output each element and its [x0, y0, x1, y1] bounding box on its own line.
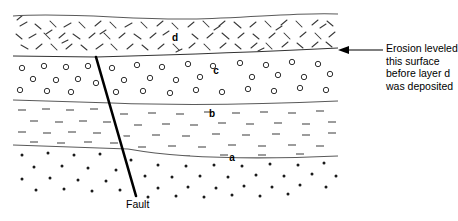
- erosion-surface-line: [13, 48, 338, 57]
- layer-label-a: a: [229, 152, 235, 163]
- erosion-annotation-line-1: Erosion leveled: [386, 42, 458, 55]
- erosion-annotation-line-3: before layer d: [386, 67, 458, 80]
- layer-a-pattern: [21, 152, 338, 199]
- erosion-annotation-line-4: was deposited: [386, 80, 458, 93]
- fault-line: [96, 57, 136, 196]
- layer-b-pattern-left: [18, 109, 118, 143]
- erosion-annotation-arrow: [338, 46, 383, 54]
- erosion-annotation-line-2: this surface: [386, 55, 458, 68]
- fault-label: Fault: [126, 198, 149, 210]
- base-of-c-left: [13, 100, 112, 103]
- layer-c-pattern-left: [17, 63, 98, 94]
- base-of-b-left: [13, 145, 128, 149]
- ground-surface-line: [13, 14, 338, 19]
- layer-label-c: c: [213, 65, 219, 76]
- erosion-annotation-text: Erosion leveled this surface before laye…: [386, 42, 458, 92]
- layer-label-d: d: [172, 32, 178, 43]
- layer-label-b: b: [209, 108, 215, 119]
- layer-b-pattern-right: [120, 111, 336, 156]
- layer-c-pattern-right: [109, 59, 332, 95]
- base-of-c-right: [112, 101, 338, 104]
